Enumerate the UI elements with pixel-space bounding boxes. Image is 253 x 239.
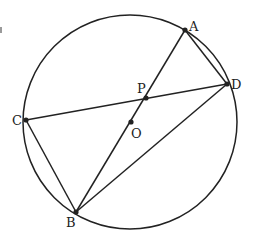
point-labels: A D C B P O <box>12 19 241 230</box>
segment-cb <box>26 120 76 212</box>
point-d-dot <box>224 81 229 86</box>
segment-ad <box>185 30 227 84</box>
label-p: P <box>137 81 146 96</box>
point-markers <box>23 27 229 214</box>
point-o-dot <box>128 119 133 124</box>
point-a-dot <box>182 27 187 32</box>
geometry-diagram: A D C B P O <box>0 0 253 239</box>
segment-cd <box>26 84 227 120</box>
point-c-dot <box>23 117 28 122</box>
segment-bd <box>76 84 227 212</box>
label-d: D <box>231 77 241 92</box>
segments <box>26 30 227 212</box>
label-c: C <box>12 113 22 128</box>
point-p-dot <box>143 95 148 100</box>
label-b: B <box>66 215 76 230</box>
label-o: O <box>131 126 142 141</box>
point-b-dot <box>73 209 78 214</box>
label-a: A <box>188 19 199 34</box>
